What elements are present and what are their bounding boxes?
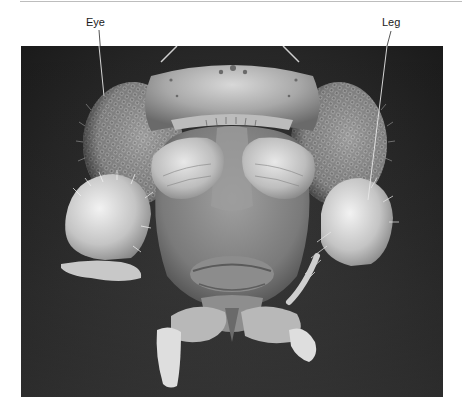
micrograph-fly-head [21, 46, 443, 397]
label-eye: Eye [86, 16, 105, 28]
top-rule-divider [20, 1, 462, 2]
label-leg: Leg [382, 16, 400, 28]
